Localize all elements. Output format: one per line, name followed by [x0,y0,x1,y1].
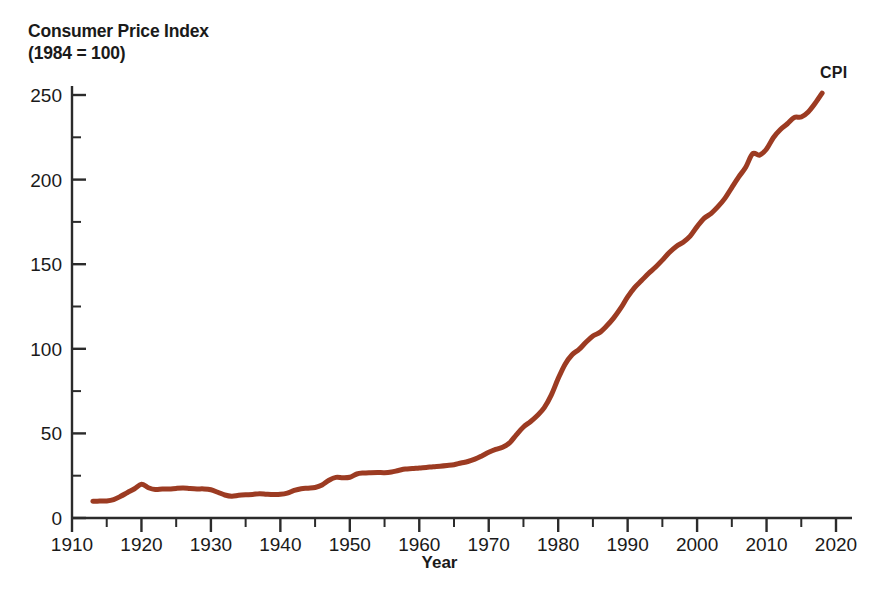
y-tick-group [72,95,86,518]
x-tick-label: 1990 [606,534,648,555]
y-tick-label-group: 050100150200250 [30,85,62,529]
y-tick-label: 100 [30,339,62,360]
series-line-cpi [93,93,822,501]
x-tick-label: 1910 [51,534,93,555]
x-tick-label: 1930 [190,534,232,555]
x-tick-label: 2020 [815,534,857,555]
x-tick-label-group: 1910192019301940195019601970198019902000… [51,534,857,555]
y-tick-label: 50 [41,423,62,444]
y-tick-label: 0 [51,508,62,529]
x-tick-label: 1980 [537,534,579,555]
y-tick-label: 150 [30,254,62,275]
y-tick-label: 200 [30,170,62,191]
x-tick-group [72,518,836,532]
x-tick-label: 1960 [398,534,440,555]
x-tick-label: 1970 [468,534,510,555]
x-tick-label: 1920 [120,534,162,555]
x-tick-label: 1950 [329,534,371,555]
x-tick-label: 1940 [259,534,301,555]
x-tick-label: 2000 [676,534,718,555]
x-tick-label: 2010 [745,534,787,555]
axes-group [72,86,852,518]
cpi-chart: Consumer Price Index (1984 = 100) CPI Ye… [0,0,879,596]
y-tick-label: 250 [30,85,62,106]
plot-area: 050100150200250 191019201930194019501960… [0,0,879,596]
